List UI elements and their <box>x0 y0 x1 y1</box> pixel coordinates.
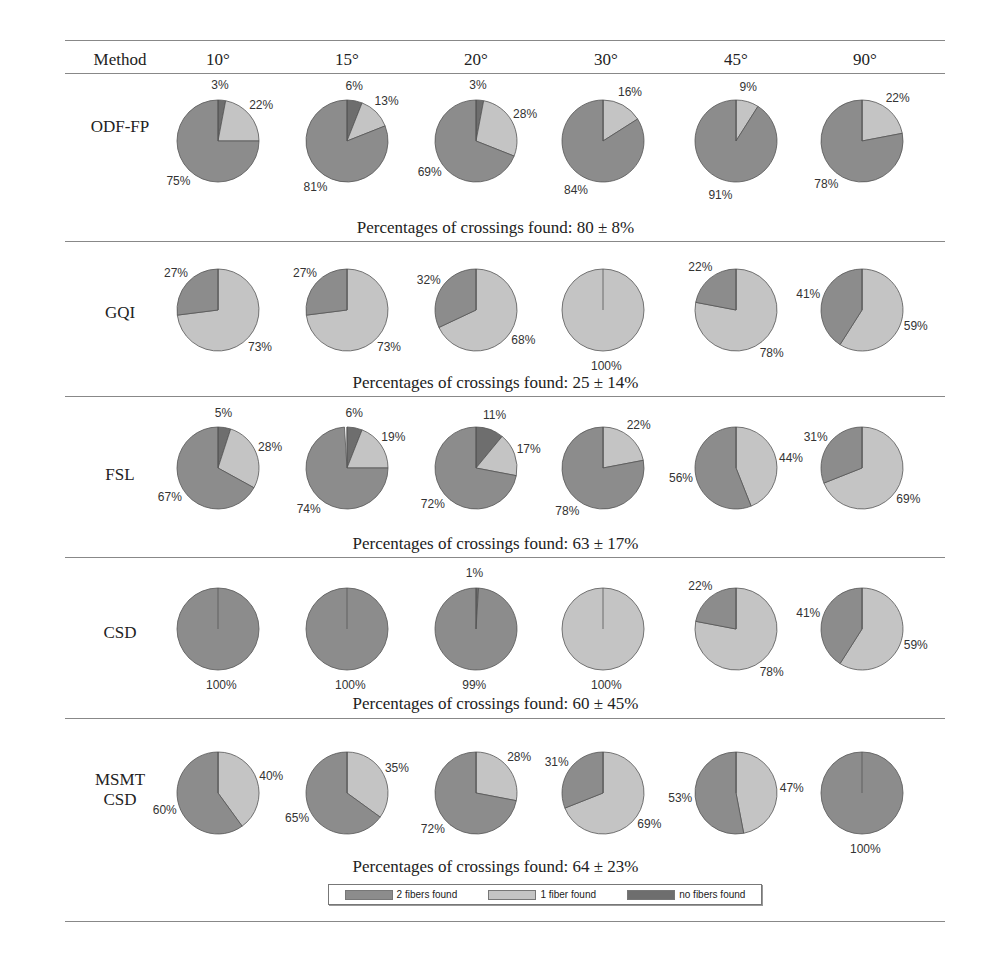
legend-label-one-fiber: 1 fiber found <box>540 889 596 900</box>
pie-label-one: 44% <box>779 451 803 465</box>
pie-label-two: 78% <box>814 177 838 191</box>
pie-label-two: 72% <box>421 497 445 511</box>
pie-label-one: 35% <box>385 761 409 775</box>
header-angle-15: 15° <box>307 50 387 70</box>
pie-label-one: 73% <box>377 340 401 354</box>
pie-chart <box>819 98 905 184</box>
pie-label-two: 91% <box>708 188 732 202</box>
pie-label-none: 6% <box>345 406 362 420</box>
pie-label-none: 5% <box>215 406 232 420</box>
pie-chart <box>433 425 519 511</box>
header-angle-10: 10° <box>178 50 258 70</box>
pie-label-one: 16% <box>618 85 642 99</box>
pie-label-one: 73% <box>248 340 272 354</box>
pie-label-one: 17% <box>517 442 541 456</box>
pie-label-two: 100% <box>206 678 237 692</box>
top-rule <box>65 40 945 41</box>
pie-chart <box>693 750 779 836</box>
pie-label-two: 56% <box>669 471 693 485</box>
header-angle-90: 90° <box>825 50 905 70</box>
pie-chart <box>304 425 390 511</box>
pie-label-two: 27% <box>164 266 188 280</box>
legend-item-two-fibers: 2 fibers found <box>345 889 458 900</box>
bottom-rule <box>65 921 945 922</box>
pie-chart <box>560 586 646 672</box>
pie-chart <box>175 98 261 184</box>
pie-label-two: 27% <box>293 266 317 280</box>
pie-chart <box>693 267 779 353</box>
pie-label-one: 68% <box>511 333 535 347</box>
pie-label-two: 31% <box>804 430 828 444</box>
pie-label-one: 22% <box>627 418 651 432</box>
row-rule <box>65 557 945 558</box>
pie-label-one: 78% <box>760 346 784 360</box>
pie-chart <box>433 586 519 672</box>
pie-label-two: 41% <box>796 606 820 620</box>
pie-label-two: 99% <box>462 678 486 692</box>
pie-label-two: 65% <box>285 811 309 825</box>
legend-swatch-one-fiber <box>488 890 536 900</box>
pie-label-one: 22% <box>886 91 910 105</box>
pie-label-one: 22% <box>249 98 273 112</box>
pie-label-two: 22% <box>688 579 712 593</box>
pie-label-one: 28% <box>258 440 282 454</box>
pie-label-one: 9% <box>740 80 757 94</box>
method-label-csd: CSD <box>65 623 175 643</box>
row-rule <box>65 396 945 397</box>
pie-label-two: 100% <box>335 678 366 692</box>
legend-item-no-fibers: no fibers found <box>627 889 745 900</box>
summary-odf-fp: Percentages of crossings found: 80 ± 8% <box>0 218 991 238</box>
pie-chart <box>560 98 646 184</box>
pie-label-one: 28% <box>507 750 531 764</box>
method-label-gqi: GQI <box>65 303 175 323</box>
pie-label-two: 74% <box>297 502 321 516</box>
legend-swatch-no-fibers <box>627 890 675 900</box>
pie-label-none: 6% <box>345 79 362 93</box>
pie-label-one: 69% <box>896 492 920 506</box>
pie-label-two: 69% <box>418 165 442 179</box>
pie-label-two: 41% <box>796 287 820 301</box>
legend: 2 fibers found 1 fiber found no fibers f… <box>328 884 762 905</box>
summary-fsl: Percentages of crossings found: 63 ± 17% <box>0 534 991 554</box>
legend-item-one-fiber: 1 fiber found <box>488 889 596 900</box>
pie-label-one: 13% <box>375 94 399 108</box>
pie-chart <box>819 425 905 511</box>
row-rule <box>65 241 945 242</box>
pie-chart <box>433 98 519 184</box>
pie-chart <box>304 586 390 672</box>
pie-chart <box>819 586 905 672</box>
header-angle-20: 20° <box>436 50 516 70</box>
pie-label-one: 28% <box>513 107 537 121</box>
pie-label-one: 59% <box>904 638 928 652</box>
method-label-odf-fp: ODF-FP <box>65 117 175 137</box>
pie-label-one: 40% <box>259 769 283 783</box>
pie-label-two: 31% <box>545 755 569 769</box>
pie-label-one: 100% <box>591 359 622 373</box>
pie-chart <box>693 98 779 184</box>
pie-slice-one <box>736 752 777 833</box>
method-label-fsl: FSL <box>65 465 175 485</box>
pie-chart <box>175 586 261 672</box>
pie-chart <box>560 425 646 511</box>
pie-label-two: 72% <box>421 822 445 836</box>
pie-chart <box>560 750 646 836</box>
pie-chart <box>175 750 261 836</box>
pie-label-one: 78% <box>760 665 784 679</box>
pie-chart <box>819 750 905 836</box>
pie-label-one: 47% <box>780 781 804 795</box>
pie-chart <box>433 267 519 353</box>
legend-swatch-two-fibers <box>345 890 393 900</box>
pie-slice-two <box>696 588 736 629</box>
pie-chart <box>175 425 261 511</box>
pie-label-two: 32% <box>417 273 441 287</box>
header-angle-45: 45° <box>696 50 776 70</box>
pie-label-two: 22% <box>688 260 712 274</box>
pie-chart <box>560 267 646 353</box>
pie-label-two: 81% <box>304 180 328 194</box>
pie-chart <box>433 750 519 836</box>
pie-label-two: 84% <box>564 183 588 197</box>
pie-label-one: 59% <box>904 319 928 333</box>
pie-slice-two <box>696 269 736 310</box>
pie-label-none: 1% <box>466 566 483 580</box>
pie-label-one: 69% <box>637 817 661 831</box>
